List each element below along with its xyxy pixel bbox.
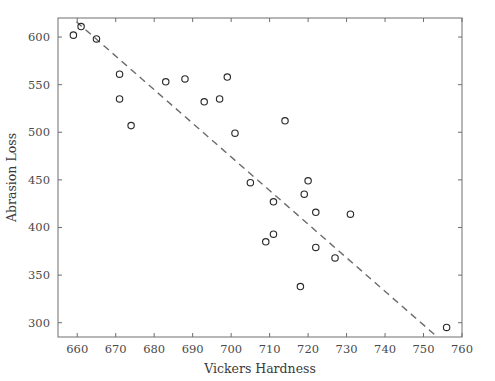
y-tick-label-550: 550 [28, 78, 50, 92]
x-tick-label-660: 660 [66, 342, 88, 356]
y-axis-title: Abrasion Loss [4, 133, 19, 223]
x-tick-label-700: 700 [220, 342, 242, 356]
scatter-plot-figure: 6606706806907007107207307407507603003504… [0, 0, 495, 381]
data-point [70, 32, 76, 38]
x-tick-label-710: 710 [259, 342, 281, 356]
data-point [232, 130, 238, 136]
y-tick-label-300: 300 [28, 316, 50, 330]
data-point [116, 96, 122, 102]
data-point [305, 178, 311, 184]
data-point [270, 231, 276, 237]
fit-line [76, 22, 436, 336]
data-point [347, 211, 353, 217]
data-point [263, 239, 269, 245]
y-tick-label-600: 600 [28, 30, 50, 44]
data-point [443, 324, 449, 330]
data-point [301, 191, 307, 197]
data-point [332, 255, 338, 261]
y-tick-label-500: 500 [28, 125, 50, 139]
x-axis-title: Vickers Hardness [203, 361, 316, 376]
x-tick-label-730: 730 [336, 342, 358, 356]
x-tick-label-690: 690 [182, 342, 204, 356]
data-point [247, 180, 253, 186]
data-point [182, 76, 188, 82]
data-point [313, 244, 319, 250]
data-point [216, 96, 222, 102]
data-point [201, 99, 207, 105]
axes-frame [58, 18, 462, 337]
x-tick-label-750: 750 [413, 342, 435, 356]
data-point [224, 74, 230, 80]
y-tick-label-400: 400 [28, 220, 50, 234]
data-point [128, 122, 134, 128]
regression-line [76, 22, 436, 336]
data-point [297, 283, 303, 289]
data-point [282, 118, 288, 124]
axes [58, 18, 462, 337]
x-tick-label-740: 740 [374, 342, 396, 356]
x-tick-label-720: 720 [297, 342, 319, 356]
data-point [270, 199, 276, 205]
x-tick-label-760: 760 [451, 342, 473, 356]
x-tick-label-680: 680 [143, 342, 165, 356]
data-point [116, 71, 122, 77]
x-tick-label-670: 670 [105, 342, 127, 356]
axis-labels: 6606706806907007107207307407507603003504… [4, 30, 473, 376]
plot-canvas: 6606706806907007107207307407507603003504… [0, 0, 495, 381]
y-tick-label-450: 450 [28, 173, 50, 187]
data-point [313, 209, 319, 215]
data-point [163, 79, 169, 85]
y-tick-label-350: 350 [28, 268, 50, 282]
data-points [70, 23, 450, 330]
